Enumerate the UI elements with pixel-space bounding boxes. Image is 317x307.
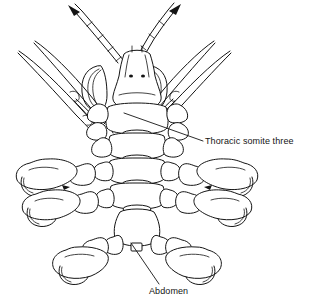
right-chelate-leg-lower [160,189,252,227]
right-terminal-leg [151,235,222,284]
left-chelate-leg-lower [22,189,114,227]
label-abdomen: Abdomen [149,287,188,296]
left-eye-dot [129,74,133,77]
crustacean-diagram [0,0,317,307]
left-terminal-leg [53,235,124,284]
left-coxal-plates-upper [87,104,109,140]
left-eye-stalk [82,66,107,111]
figure-container: Thoracic somite three Abdomen [0,0,317,307]
telson-notch [131,243,142,251]
left-antenna [68,4,124,63]
label-thoracic-somite-three: Thoracic somite three [205,137,294,146]
cephalon-head-shield [113,46,161,107]
right-eye-dot [141,74,145,77]
